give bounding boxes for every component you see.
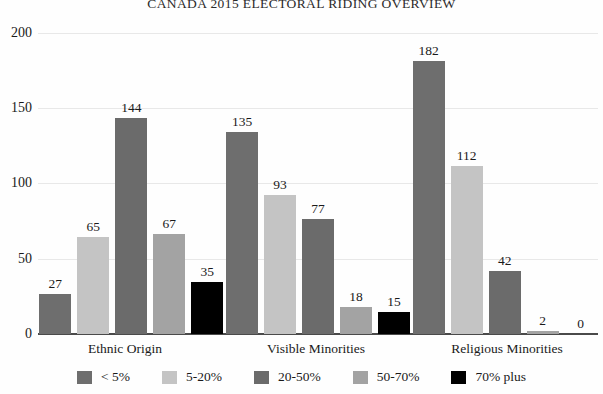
plot-area: 27651446735135937718151821124220: [38, 33, 598, 334]
bar[interactable]: 35: [191, 282, 223, 335]
bar-value-label: 77: [311, 201, 325, 217]
bar[interactable]: 77: [302, 219, 334, 335]
bar[interactable]: 144: [115, 118, 147, 334]
bar-value-label: 2: [539, 313, 546, 329]
legend-label: < 5%: [101, 369, 130, 385]
bar[interactable]: 182: [413, 61, 445, 334]
bar-value-label: 93: [273, 177, 287, 193]
bar[interactable]: 27: [39, 294, 71, 335]
legend-item[interactable]: < 5%: [77, 369, 130, 385]
bar-value-label: 65: [87, 219, 101, 235]
chart-title: CANADA 2015 ELECTORAL RIDING OVERVIEW: [0, 0, 603, 12]
bar-value-label: 182: [419, 43, 439, 59]
y-axis-tick-200: 200: [0, 25, 32, 41]
legend-item[interactable]: 70% plus: [451, 369, 526, 385]
group-label-religious-minorities: Religious Minorities: [451, 341, 562, 357]
y-axis-tick-150: 150: [0, 100, 32, 116]
y-axis-tick-50: 50: [0, 251, 32, 267]
chart-container: CANADA 2015 ELECTORAL RIDING OVERVIEW 20…: [0, 0, 603, 394]
bar-value-label: 112: [457, 148, 477, 164]
legend-swatch-icon: [162, 371, 177, 384]
bars-layer: 27651446735135937718151821124220: [38, 33, 598, 334]
group-label-ethnic-origin: Ethnic Origin: [88, 341, 162, 357]
bar-value-label: 42: [498, 253, 512, 269]
bar-value-label: 27: [49, 276, 63, 292]
legend-item[interactable]: 20-50%: [254, 369, 321, 385]
legend-swatch-icon: [451, 371, 466, 384]
bar-value-label: 18: [349, 289, 363, 305]
bar[interactable]: 15: [378, 312, 410, 335]
legend-label: 70% plus: [475, 369, 526, 385]
bar[interactable]: 112: [451, 166, 483, 334]
bar[interactable]: 65: [77, 237, 109, 335]
legend-swatch-icon: [254, 371, 269, 384]
y-axis-tick-100: 100: [0, 175, 32, 191]
bar-value-label: 144: [121, 100, 141, 116]
bar[interactable]: 93: [264, 195, 296, 335]
bar[interactable]: 67: [153, 234, 185, 335]
legend-label: 5-20%: [186, 369, 222, 385]
legend-label: 20-50%: [278, 369, 321, 385]
bar-value-label: 15: [387, 294, 401, 310]
legend-swatch-icon: [353, 371, 368, 384]
bar[interactable]: 42: [489, 271, 521, 334]
bar[interactable]: 135: [226, 132, 258, 335]
bar-value-label: 67: [163, 216, 177, 232]
bar-value-label: 0: [577, 316, 584, 332]
bar-value-label: 35: [201, 264, 215, 280]
legend-item[interactable]: 5-20%: [162, 369, 222, 385]
legend-item[interactable]: 50-70%: [353, 369, 420, 385]
bar[interactable]: 18: [340, 307, 372, 334]
group-label-visible-minorities: Visible Minorities: [267, 341, 365, 357]
bar-value-label: 135: [232, 114, 252, 130]
legend-label: 50-70%: [377, 369, 420, 385]
y-axis-tick-0: 0: [0, 326, 32, 342]
legend-swatch-icon: [77, 371, 92, 384]
chart-legend: < 5%5-20%20-50%50-70%70% plus: [0, 369, 603, 385]
bar[interactable]: 2: [527, 331, 559, 334]
